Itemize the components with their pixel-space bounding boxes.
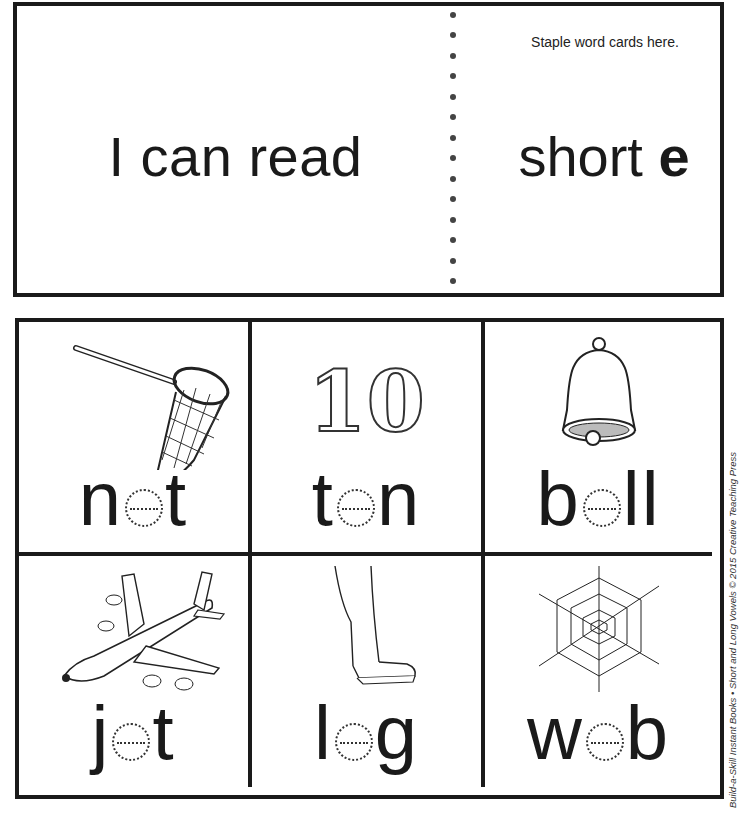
- title-right: short e: [475, 124, 733, 189]
- word-card-net[interactable]: net: [19, 322, 252, 556]
- vowel-blank: e: [583, 489, 621, 527]
- copyright-credit: Build-a-Skill Instant Books • Short and …: [727, 498, 738, 808]
- vowel-blank: e: [335, 723, 373, 761]
- vowel-blank: e: [125, 489, 163, 527]
- word-card-bell[interactable]: bell: [485, 322, 712, 556]
- jet-airplane-icon: [19, 564, 248, 704]
- word-leg: leg: [252, 688, 481, 778]
- butterfly-net-icon: [19, 330, 248, 470]
- bell-icon: [485, 330, 712, 470]
- word-ten: ten: [252, 454, 481, 544]
- word-bell: bell: [485, 454, 712, 544]
- vowel-blank: e: [586, 723, 624, 761]
- word-card-jet[interactable]: jet: [19, 556, 252, 787]
- title-vowel: e: [658, 125, 689, 188]
- word-net: net: [19, 454, 248, 544]
- vowel-blank: e: [337, 489, 375, 527]
- word-card-grid: net 10 ten bell: [15, 318, 724, 799]
- title-left: I can read: [17, 124, 454, 189]
- staple-note: Staple word cards here.: [495, 34, 715, 50]
- word-web: web: [485, 688, 712, 778]
- title-panel: Staple word cards here. I can read short…: [13, 2, 724, 297]
- number-ten-icon: 10: [252, 330, 481, 470]
- word-card-leg[interactable]: leg: [252, 556, 485, 787]
- word-card-web[interactable]: web: [485, 556, 712, 787]
- word-card-ten[interactable]: 10 ten: [252, 322, 485, 556]
- spider-web-icon: [485, 564, 712, 704]
- vowel-blank: e: [112, 723, 150, 761]
- word-jet: jet: [19, 688, 248, 778]
- leg-with-shoe-icon: [252, 564, 481, 704]
